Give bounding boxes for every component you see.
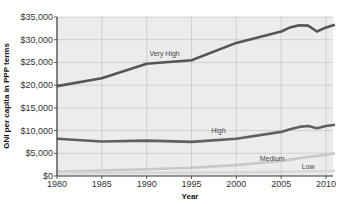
x-tick-label: 2010 [316,179,336,189]
y-tick-label: $5,000 [25,148,53,158]
y-tick-label: $35,000 [20,12,53,22]
y-axis-ticks: $0$5,000$10,000$15,000$20,000$25,000$30,… [20,12,57,181]
series-label: Low [302,163,316,170]
series-label: Very High [149,50,179,58]
x-axis-title: Year [182,192,199,201]
y-tick-label: $30,000 [20,35,53,45]
y-tick-label: $15,000 [20,103,53,113]
x-tick-label: 1985 [92,179,112,189]
y-tick-label: $20,000 [20,80,53,90]
gni-line-chart: $0$5,000$10,000$15,000$20,000$25,000$30,… [0,0,339,204]
series-label: Medium [260,155,285,162]
series-label: High [211,127,226,135]
y-tick-label: $25,000 [20,57,53,67]
x-tick-label: 1980 [47,179,67,189]
plot-area [57,17,333,176]
x-tick-label: 1995 [181,179,201,189]
y-axis-title: GNI per capita in PPP terms [2,43,11,149]
x-tick-label: 2000 [226,179,246,189]
x-axis-ticks: 1980198519901995200020052010 [47,176,336,189]
x-tick-label: 1990 [137,179,157,189]
y-tick-label: $10,000 [20,126,53,136]
x-tick-label: 2005 [271,179,291,189]
